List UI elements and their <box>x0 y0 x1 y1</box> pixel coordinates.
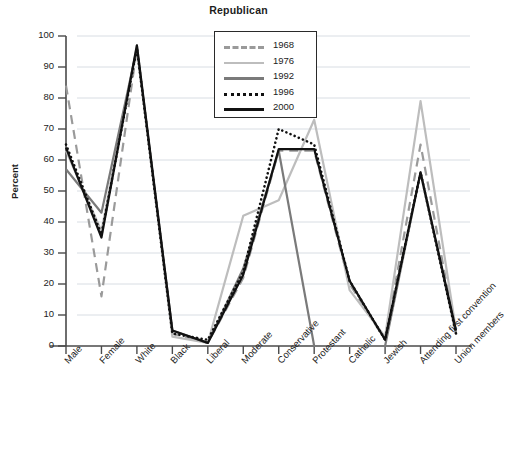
y-tick-label: 100 <box>28 29 54 40</box>
y-tick-label: 40 <box>28 215 54 226</box>
y-tick-label: 70 <box>28 122 54 133</box>
legend-label-1968: 1968 <box>273 39 294 50</box>
legend-swatch-1992 <box>224 77 264 80</box>
legend-swatch-1996 <box>224 93 264 96</box>
legend-item-1968: 1968 <box>215 40 316 55</box>
legend-swatch-2000 <box>224 108 264 111</box>
legend-label-2000: 2000 <box>273 101 294 112</box>
legend-item-2000: 2000 <box>215 102 316 117</box>
legend-label-1976: 1976 <box>273 55 294 66</box>
y-tick-label: 30 <box>28 246 54 257</box>
y-tick-label: 50 <box>28 184 54 195</box>
legend-item-1996: 1996 <box>215 87 316 102</box>
y-tick-label: 60 <box>28 153 54 164</box>
legend-item-1992: 1992 <box>215 71 316 86</box>
y-tick-label: 0 <box>28 339 54 350</box>
legend-item-1976: 1976 <box>215 56 316 71</box>
legend-swatch-1976 <box>224 62 264 65</box>
y-tick-label: 20 <box>28 277 54 288</box>
y-tick-label: 10 <box>28 308 54 319</box>
legend-label-1996: 1996 <box>273 86 294 97</box>
legend-swatch-1968 <box>224 46 264 49</box>
chart-legend: 19681976199219962000 <box>214 31 317 118</box>
y-tick-label: 80 <box>28 91 54 102</box>
y-tick-label: 90 <box>28 60 54 71</box>
legend-label-1992: 1992 <box>273 70 294 81</box>
